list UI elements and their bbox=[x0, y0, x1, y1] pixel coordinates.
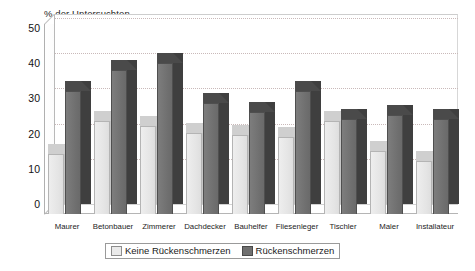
legend-item-rueckenschmerzen: Rückenschmerzen bbox=[242, 245, 335, 256]
bar-chart: % der Untersuchten 50403020100 MaurerBet… bbox=[0, 0, 475, 271]
bar-group-bauhelfer bbox=[228, 24, 274, 214]
bar-maurer-schmerzen bbox=[65, 91, 81, 214]
bar-dachdecker-schmerzen bbox=[203, 103, 219, 214]
bar-face bbox=[249, 112, 265, 214]
chart-legend: Keine Rückenschmerzen Rückenschmerzen bbox=[105, 243, 340, 259]
y-tick-label-30: 30 bbox=[14, 92, 40, 104]
bar-group-installateur bbox=[412, 24, 458, 214]
y-tick-label-0: 0 bbox=[14, 198, 40, 210]
x-label-betonbauer: Betonbauer bbox=[90, 222, 136, 231]
bar-top bbox=[249, 102, 275, 112]
bar-group-maurer bbox=[44, 24, 90, 214]
y-tick-label-40: 40 bbox=[14, 57, 40, 69]
bar-group-tischler bbox=[320, 24, 366, 214]
bar-dachdecker-keine bbox=[186, 133, 202, 214]
bar-group-maler bbox=[366, 24, 412, 214]
y-axis: 50403020100 bbox=[0, 24, 40, 214]
bar-face bbox=[278, 137, 294, 214]
bar-tischler-keine bbox=[324, 121, 340, 214]
bar-top bbox=[341, 109, 367, 119]
x-label-maler: Maler bbox=[366, 222, 412, 231]
bar-face bbox=[341, 119, 357, 214]
bar-bauhelfer-keine bbox=[232, 135, 248, 214]
bar-top bbox=[65, 81, 91, 91]
bar-face bbox=[157, 63, 173, 214]
x-label-maurer: Maurer bbox=[44, 222, 90, 231]
y-tick-label-20: 20 bbox=[14, 128, 40, 140]
x-label-installateur: Installateur bbox=[412, 222, 458, 231]
bar-top bbox=[387, 105, 413, 115]
x-label-tischler: Tischler bbox=[320, 222, 366, 231]
x-label-zimmerer: Zimmerer bbox=[136, 222, 182, 231]
bar-maurer-keine bbox=[48, 154, 64, 214]
legend-label-0: Keine Rückenschmerzen bbox=[125, 245, 231, 256]
bar-fliesenleger-keine bbox=[278, 137, 294, 214]
bar-top bbox=[203, 93, 229, 103]
bar-face bbox=[416, 161, 432, 214]
bar-face bbox=[111, 70, 127, 214]
x-label-bauhelfer: Bauhelfer bbox=[228, 222, 274, 231]
y-tick-label-10: 10 bbox=[14, 163, 40, 175]
bar-side bbox=[449, 109, 459, 204]
bar-betonbauer-keine bbox=[94, 121, 110, 214]
gridline-50 bbox=[55, 18, 458, 19]
bar-installateur-schmerzen bbox=[433, 119, 449, 214]
bar-zimmerer-schmerzen bbox=[157, 63, 173, 214]
bar-fliesenleger-schmerzen bbox=[295, 91, 311, 214]
bar-group-fliesenleger bbox=[274, 24, 320, 214]
legend-swatch-dark-icon bbox=[242, 246, 253, 256]
bar-group-dachdecker bbox=[182, 24, 228, 214]
plot-area bbox=[44, 24, 458, 214]
x-label-fliesenleger: Fliesenleger bbox=[274, 222, 320, 231]
bar-face bbox=[232, 135, 248, 214]
x-label-dachdecker: Dachdecker bbox=[182, 222, 228, 231]
legend-item-keine-rueckenschmerzen: Keine Rückenschmerzen bbox=[111, 245, 231, 256]
bar-face bbox=[186, 133, 202, 214]
legend-swatch-light-icon bbox=[111, 246, 122, 256]
bar-group-zimmerer bbox=[136, 24, 182, 214]
figure-caption bbox=[0, 262, 475, 271]
bar-face bbox=[140, 126, 156, 214]
bar-top bbox=[433, 109, 459, 119]
bar-face bbox=[94, 121, 110, 214]
bar-maler-schmerzen bbox=[387, 115, 403, 214]
bar-face bbox=[324, 121, 340, 214]
bar-face bbox=[295, 91, 311, 214]
bar-installateur-keine bbox=[416, 161, 432, 214]
bar-face bbox=[387, 115, 403, 214]
x-axis-labels: MaurerBetonbauerZimmererDachdeckerBauhel… bbox=[44, 222, 468, 236]
bar-group-betonbauer bbox=[90, 24, 136, 214]
bar-top bbox=[295, 81, 321, 91]
y-tick-label-50: 50 bbox=[14, 22, 40, 34]
bar-maler-keine bbox=[370, 151, 386, 214]
bar-top bbox=[157, 53, 183, 63]
bar-face bbox=[65, 91, 81, 214]
bar-face bbox=[48, 154, 64, 214]
bar-zimmerer-keine bbox=[140, 126, 156, 214]
bar-tischler-schmerzen bbox=[341, 119, 357, 214]
bar-face bbox=[203, 103, 219, 214]
bar-betonbauer-schmerzen bbox=[111, 70, 127, 214]
bar-bauhelfer-schmerzen bbox=[249, 112, 265, 214]
bar-face bbox=[370, 151, 386, 214]
bar-top bbox=[111, 60, 137, 70]
bar-face bbox=[433, 119, 449, 214]
legend-label-1: Rückenschmerzen bbox=[256, 245, 335, 256]
